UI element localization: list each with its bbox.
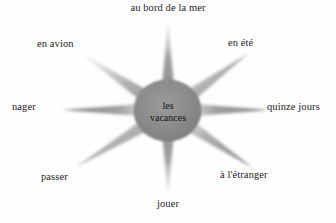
- node-label-east: quinze jours: [267, 101, 320, 113]
- node-label-northeast: en été: [228, 37, 253, 49]
- node-label-southwest: passer: [41, 171, 68, 183]
- node-label-northwest: en avion: [37, 38, 74, 50]
- center-node-line2: vacances: [150, 112, 186, 125]
- center-node-line1: les: [150, 99, 186, 112]
- center-node: les vacances: [150, 99, 186, 124]
- node-label-south: jouer: [157, 198, 179, 210]
- node-label-north: au bord de la mer: [130, 2, 205, 14]
- node-label-southeast: à l'étranger: [220, 169, 268, 181]
- word-web-diagram: les vacances au bord de la mer en été qu…: [0, 0, 336, 223]
- node-label-west: nager: [12, 101, 36, 113]
